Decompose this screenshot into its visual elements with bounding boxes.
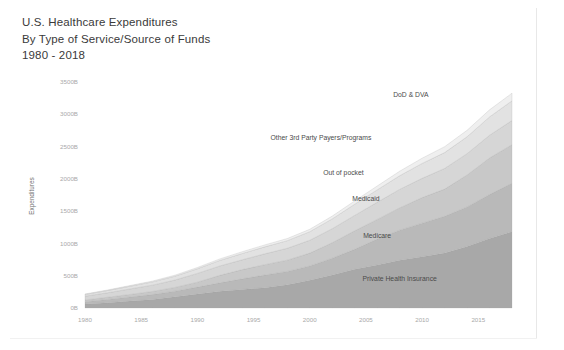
x-axis-tick-labels: 19801985199019952000200520102015 bbox=[78, 316, 486, 323]
x-tick-label: 1980 bbox=[78, 316, 92, 323]
y-tick-label: 3000B bbox=[60, 110, 78, 117]
y-tick-label: 2000B bbox=[60, 175, 78, 182]
x-tick-label: 2010 bbox=[415, 316, 429, 323]
y-tick-label: 0B bbox=[70, 304, 78, 311]
series-label-dod-dva: DoD & DVA bbox=[393, 91, 429, 98]
x-tick-label: 1985 bbox=[134, 316, 148, 323]
chart-svg: 3500B3000B2500B2000B1500B1000B500B0B 198… bbox=[0, 0, 564, 350]
series-label-medicaid: Medicaid bbox=[352, 195, 379, 202]
series-label-other-3rd-party-payers-programs: Other 3rd Party Payers/Programs bbox=[271, 134, 372, 142]
x-tick-label: 2015 bbox=[471, 316, 485, 323]
x-tick-label: 1990 bbox=[190, 316, 204, 323]
series-label-private-health-insurance: Private Health Insurance bbox=[362, 275, 437, 282]
y-tick-label: 1000B bbox=[60, 240, 78, 247]
stacked-area-chart: 3500B3000B2500B2000B1500B1000B500B0B 198… bbox=[0, 0, 564, 350]
series-label-out-of-pocket: Out of pocket bbox=[323, 169, 364, 177]
area-series-group bbox=[85, 93, 512, 308]
y-tick-label: 3500B bbox=[60, 78, 78, 85]
y-axis-title: Expenditures bbox=[28, 177, 36, 214]
series-label-medicare: Medicare bbox=[363, 232, 391, 239]
y-tick-label: 500B bbox=[64, 272, 78, 279]
y-axis-tick-labels: 3500B3000B2500B2000B1500B1000B500B0B bbox=[60, 78, 78, 311]
y-axis-title-group: Expenditures bbox=[28, 177, 36, 214]
y-tick-label: 2500B bbox=[60, 143, 78, 150]
y-tick-label: 1500B bbox=[60, 207, 78, 214]
x-tick-label: 1995 bbox=[247, 316, 261, 323]
x-tick-label: 2000 bbox=[303, 316, 317, 323]
x-tick-label: 2005 bbox=[359, 316, 373, 323]
chart-page: U.S. Healthcare Expenditures By Type of … bbox=[0, 0, 564, 350]
